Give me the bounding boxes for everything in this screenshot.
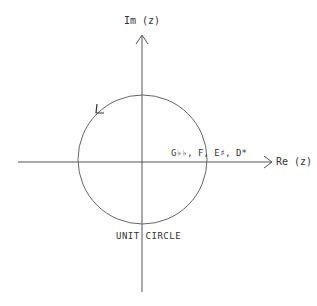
diagram-graphics	[0, 0, 317, 306]
real-axis-label: Re (z)	[276, 156, 312, 167]
imaginary-axis-label: Im (z)	[124, 15, 160, 26]
unit-circle-diagram: Im (z) Re (z) G♭♭, F, E♯, D* UNIT CIRCLE	[0, 0, 317, 306]
point-label: G♭♭, F, E♯, D*	[171, 148, 247, 158]
circle-caption: UNIT CIRCLE	[116, 231, 181, 241]
